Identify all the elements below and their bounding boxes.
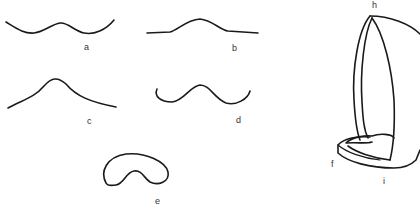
- label-b: b: [232, 43, 237, 53]
- label-i: i: [383, 176, 385, 186]
- label-a: a: [84, 42, 89, 52]
- shape-e: [104, 154, 168, 186]
- label-e: e: [155, 196, 160, 206]
- label-f: f: [331, 159, 334, 169]
- diagram-canvas: a b c d e h f i: [0, 0, 420, 209]
- label-d: d: [236, 115, 241, 125]
- shell-outer-arc: [370, 16, 420, 34]
- shell-inner-right: [372, 18, 394, 160]
- shell-inner-left: [361, 18, 372, 138]
- label-h: h: [372, 0, 377, 10]
- shell-3d: [338, 16, 420, 168]
- curve-d: [156, 85, 250, 104]
- curve-c: [8, 79, 116, 108]
- label-c: c: [87, 116, 92, 126]
- curve-b: [147, 19, 258, 33]
- curve-a: [6, 20, 114, 33]
